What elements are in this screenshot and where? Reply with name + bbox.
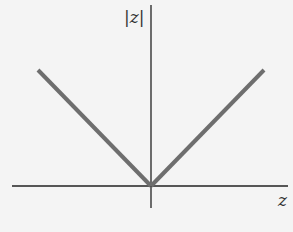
x-axis-label: z: [277, 190, 288, 210]
curve-right-branch: [151, 70, 264, 186]
curve-left-branch: [38, 70, 151, 186]
y-axis-label: |z|: [124, 7, 144, 27]
abs-value-plot: |z| z: [0, 0, 293, 232]
